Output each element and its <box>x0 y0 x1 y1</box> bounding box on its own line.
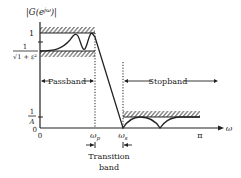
y-tick-passband-min-den: √1 + ε² <box>13 53 37 61</box>
passband-label: Passband <box>48 77 86 86</box>
stopband-arrow-left-icon <box>124 79 128 83</box>
passband-lower-hatch <box>40 51 95 57</box>
x-tick-pi: π <box>197 131 202 140</box>
x-tick-omega-p: ωp <box>90 131 101 142</box>
x-axis-label: ω <box>226 124 233 133</box>
passband-arrow-left-icon <box>41 79 45 83</box>
stopband-hatch <box>123 111 200 117</box>
x-tick-origin: 0 <box>38 132 42 140</box>
transition-label-line2: band <box>99 163 119 172</box>
transition-arrow-right-icon <box>124 143 128 147</box>
y-tick-zero: 0 <box>33 126 37 134</box>
transition-arrow-left-icon <box>90 143 94 147</box>
y-axis-label: |G(ejω)| <box>26 6 57 18</box>
x-axis-arrow-icon <box>218 126 224 131</box>
y-tick-stopband-num: 1 <box>30 108 34 116</box>
stopband-label: Stopband <box>149 77 188 86</box>
transition-label-line1: Transition <box>88 152 130 161</box>
y-tick-one: 1 <box>29 29 34 38</box>
x-tick-omega-s: ωs <box>118 131 128 141</box>
passband-arrow-right-icon <box>90 79 94 83</box>
y-tick-stopband-den: A <box>28 118 34 126</box>
stopband-arrow-right-icon <box>214 79 218 83</box>
passband-upper-hatch <box>40 27 95 33</box>
y-tick-passband-min-num: 1 <box>23 43 27 51</box>
filter-spec-diagram: Passband Stopband |G(ejω)| 1 1 √1 + ε² 1… <box>0 0 241 178</box>
